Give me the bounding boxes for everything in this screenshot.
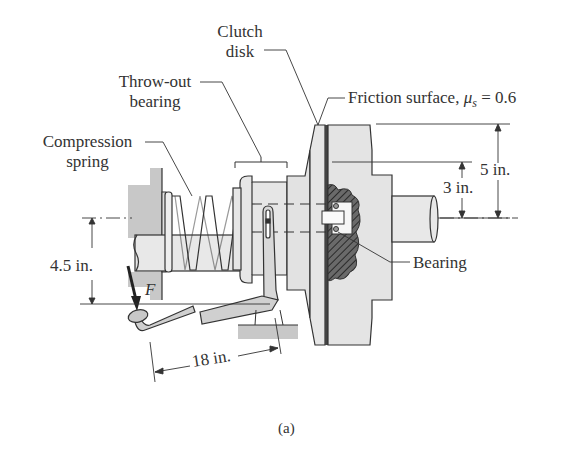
- label-force-f: F: [145, 280, 155, 300]
- friction-surface-text: Friction surface,: [348, 88, 464, 107]
- label-clutch-disk-line2: disk: [210, 42, 270, 62]
- mu-value: = 0.6: [477, 88, 516, 107]
- label-compression-line1: Compression: [30, 132, 145, 152]
- clutch-diagram: [0, 0, 584, 459]
- output-shaft: [392, 196, 438, 242]
- label-friction-surface: Friction surface, μs = 0.6: [348, 88, 516, 113]
- label-5in: 5 in.: [480, 160, 510, 180]
- pressure-plate: [287, 150, 310, 318]
- label-throw-out-line2: bearing: [110, 92, 200, 112]
- clutch-disk: [310, 125, 325, 345]
- label-clutch-disk: Clutch disk: [210, 22, 270, 62]
- throw-out-bearing: [233, 157, 287, 283]
- label-throw-out-line1: Throw-out: [110, 72, 200, 92]
- figure-caption: (a): [278, 418, 295, 438]
- label-compression-spring: Compression spring: [30, 132, 145, 172]
- mu-symbol: μ: [464, 88, 473, 107]
- label-compression-line2: spring: [30, 152, 145, 172]
- label-4-5in: 4.5 in.: [50, 256, 93, 276]
- label-throw-out-bearing: Throw-out bearing: [110, 72, 200, 112]
- label-bearing: Bearing: [413, 253, 467, 273]
- label-clutch-disk-line1: Clutch: [210, 22, 270, 42]
- label-3in: 3 in.: [443, 178, 473, 198]
